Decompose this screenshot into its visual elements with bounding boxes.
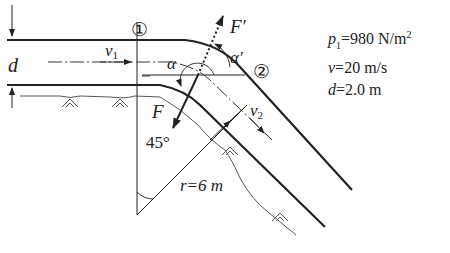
force-label: F xyxy=(151,101,164,122)
parameter-velocity: v=20 m/s xyxy=(328,57,411,79)
force-arrow xyxy=(173,75,198,128)
velocity-in-label: v1 xyxy=(105,41,118,61)
parameter-diameter: d=2.0 m xyxy=(328,79,411,101)
reaction-force-label: F′ xyxy=(229,16,247,37)
reaction-force-arrow xyxy=(198,16,223,75)
parameter-pressure: p1=980 N/m2 xyxy=(328,24,411,57)
section1-label: ① xyxy=(131,19,148,40)
parameter-list: p1=980 N/m2 v=20 m/s d=2.0 m xyxy=(328,24,411,101)
bend-angle-label: 45° xyxy=(146,133,170,152)
alpha-label: α xyxy=(167,54,177,73)
velocity-out-label: v2 xyxy=(250,101,263,121)
angle-arc-45 xyxy=(137,192,153,199)
alpha-prime-label: α′ xyxy=(230,48,243,67)
radius-label: r=6 m xyxy=(180,176,223,195)
pipe-inner-wall xyxy=(7,85,325,227)
diameter-label: d xyxy=(8,54,19,76)
section2-label: ② xyxy=(253,61,270,82)
